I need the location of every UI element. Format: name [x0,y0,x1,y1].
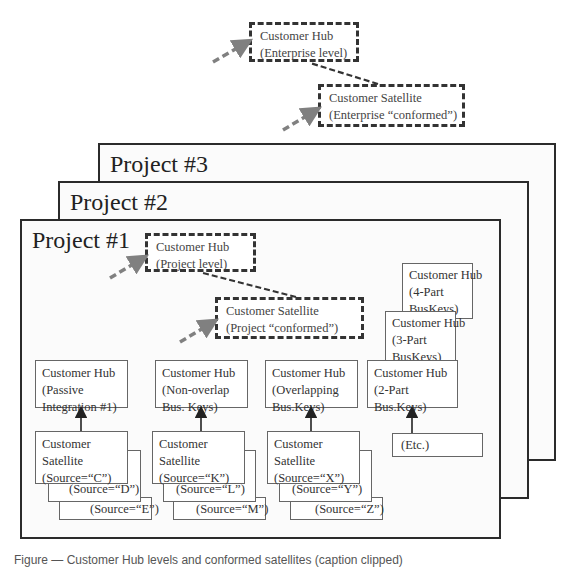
project-satellite-to-hub-link [203,273,296,297]
enterprise-hub-gray-arrow [213,44,244,62]
project-hub-gray-arrow [110,260,140,278]
project-satellite-gray-arrow [180,324,210,342]
figure-caption: Figure — Customer Hub levels and conform… [14,553,403,567]
enterprise-satellite-gray-arrow [283,112,313,130]
enterprise-satellite-to-hub-link [310,63,378,84]
